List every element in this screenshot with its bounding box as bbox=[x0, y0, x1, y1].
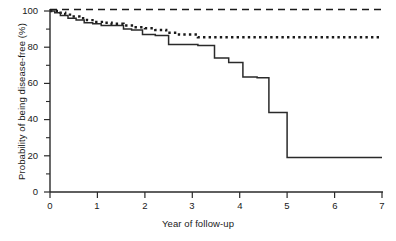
x-axis-title: Year of follow-up bbox=[0, 218, 396, 229]
x-axis-ticks bbox=[50, 192, 382, 198]
x-tick-label-3: 3 bbox=[182, 200, 202, 211]
x-tick-label-6: 6 bbox=[325, 200, 345, 211]
x-tick-label-5: 5 bbox=[277, 200, 297, 211]
chart-figure: 100 80 60 40 20 0 0 1 2 3 4 5 6 7 Probab… bbox=[0, 0, 396, 241]
x-tick-label-2: 2 bbox=[135, 200, 155, 211]
x-tick-label-4: 4 bbox=[230, 200, 250, 211]
x-tick-label-7: 7 bbox=[372, 200, 392, 211]
x-tick-label-1: 1 bbox=[87, 200, 107, 211]
y-axis-title: Probability of being disease-free (%) bbox=[16, 7, 27, 197]
series-solid-curve bbox=[50, 11, 382, 157]
x-tick-label-0: 0 bbox=[40, 200, 60, 211]
